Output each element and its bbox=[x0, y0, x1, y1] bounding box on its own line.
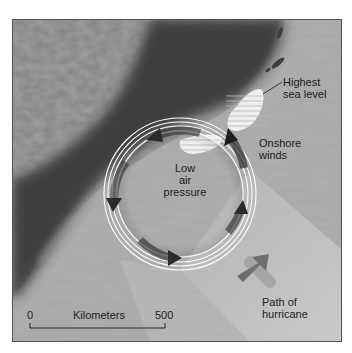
label-line: Onshore bbox=[259, 137, 301, 149]
label-line: Path of bbox=[262, 296, 308, 308]
label-onshore-winds: Onshore winds bbox=[259, 137, 301, 161]
scale-max-label: 500 bbox=[155, 309, 173, 321]
label-line: air bbox=[155, 174, 215, 186]
label-line: hurricane bbox=[262, 308, 308, 320]
label-line: Low bbox=[155, 162, 215, 174]
scale-unit-label: Kilometers bbox=[73, 309, 125, 321]
label-line: Highest bbox=[283, 76, 326, 88]
label-line: sea level bbox=[283, 88, 326, 100]
label-line: winds bbox=[259, 149, 301, 161]
label-highest-sea-level: Highest sea level bbox=[283, 76, 326, 100]
label-path-of-hurricane: Path of hurricane bbox=[262, 296, 308, 320]
label-low-air-pressure: Low air pressure bbox=[155, 162, 215, 198]
scale-min-label: 0 bbox=[27, 309, 33, 321]
label-line: pressure bbox=[155, 186, 215, 198]
